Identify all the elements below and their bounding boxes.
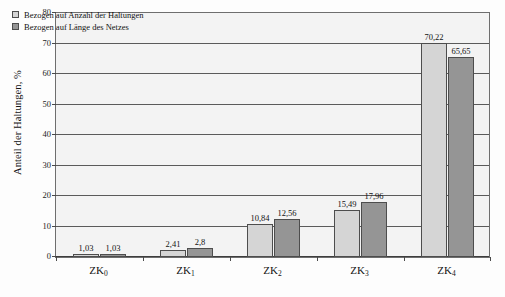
bar-group: 70,2265,65	[404, 13, 491, 257]
x-axis-label: ZK2	[263, 264, 281, 276]
bar[interactable]: 2,41	[160, 250, 186, 257]
bar[interactable]: 17,96	[361, 202, 387, 257]
bar[interactable]: 1,03	[73, 254, 99, 257]
bar-value-label: 12,56	[277, 208, 296, 218]
bar-value-label: 65,65	[451, 46, 470, 56]
bar-value-label: 2,41	[166, 239, 181, 249]
bar[interactable]: 10,84	[247, 224, 273, 257]
bar-value-label: 10,84	[250, 213, 269, 223]
bar-value-label: 15,49	[337, 199, 356, 209]
bar-value-label: 17,96	[364, 191, 383, 201]
x-tick-mark	[56, 257, 57, 261]
x-axis-label: ZK3	[350, 264, 368, 276]
y-tick-label: 0	[47, 251, 51, 261]
chart-legend: Bezogen auf Anzahl der Haltungen Bezogen…	[9, 6, 148, 36]
bar-group: 1,031,03	[56, 13, 143, 257]
y-tick-label: 50	[43, 99, 52, 109]
x-tick-mark	[230, 257, 231, 261]
bar[interactable]: 65,65	[448, 57, 474, 257]
bar-value-label: 2,8	[195, 237, 206, 247]
legend-item: Bezogen auf Länge des Netzes	[12, 21, 143, 32]
bar[interactable]: 2,8	[187, 248, 213, 257]
bar-chart: Anteil der Haltungen, % 0102030405060708…	[0, 0, 505, 297]
x-axis-labels: ZK0ZK1ZK2ZK3ZK4	[55, 264, 490, 288]
y-tick-label: 30	[43, 160, 52, 170]
bar[interactable]: 15,49	[334, 210, 360, 257]
legend-swatch-icon	[12, 23, 19, 30]
bar-group: 2,412,8	[143, 13, 230, 257]
bar[interactable]: 1,03	[100, 254, 126, 257]
bar[interactable]: 70,22	[421, 43, 447, 257]
bar[interactable]: 12,56	[274, 219, 300, 257]
y-tick-label: 60	[43, 68, 52, 78]
bars-layer: 1,031,032,412,810,8412,5615,4917,9670,22…	[56, 13, 489, 257]
legend-item: Bezogen auf Anzahl der Haltungen	[12, 9, 143, 20]
y-tick-label: 70	[43, 38, 52, 48]
x-tick-mark	[317, 257, 318, 261]
x-tick-mark	[143, 257, 144, 261]
y-tick-label: 10	[43, 221, 52, 231]
x-axis-label: ZK4	[437, 264, 455, 276]
bar-value-label: 1,03	[79, 243, 94, 253]
x-tick-mark	[490, 257, 491, 261]
bar-value-label: 1,03	[106, 243, 121, 253]
plot-area: 01020304050607080 1,031,032,412,810,8412…	[55, 12, 490, 258]
x-tick-mark	[404, 257, 405, 261]
legend-swatch-icon	[12, 11, 19, 18]
bar-group: 10,8412,56	[230, 13, 317, 257]
bar-value-label: 70,22	[424, 32, 443, 42]
y-tick-label: 40	[43, 129, 52, 139]
y-tick-label: 20	[43, 190, 52, 200]
x-axis-label: ZK1	[176, 264, 194, 276]
legend-item-label: Bezogen auf Anzahl der Haltungen	[24, 10, 143, 20]
plot-inner: 01020304050607080 1,031,032,412,810,8412…	[56, 13, 489, 257]
x-axis-label: ZK0	[89, 264, 107, 276]
bar-group: 15,4917,96	[317, 13, 404, 257]
legend-item-label: Bezogen auf Länge des Netzes	[24, 22, 129, 32]
y-axis-title: Anteil der Haltungen, %	[6, 0, 28, 271]
